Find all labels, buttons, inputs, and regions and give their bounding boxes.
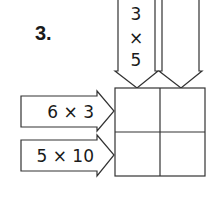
down-arrow-right xyxy=(159,0,202,88)
row-factor-top: 6 × 3 xyxy=(47,102,94,122)
arrow-factor-top: 3 xyxy=(131,4,142,24)
grid-cell-top-right[interactable] xyxy=(161,89,204,131)
grid-cell-top-left[interactable] xyxy=(116,89,159,131)
arrow-factor-bottom: 5 xyxy=(131,50,142,70)
down-arrow-left: 3 × 5 xyxy=(115,0,158,88)
row-factor-bottom: 5 × 10 xyxy=(37,146,95,166)
grid-cell-bottom-left[interactable] xyxy=(116,133,159,175)
grid-cell-bottom-right[interactable] xyxy=(161,133,204,175)
arrow-times-symbol: × xyxy=(129,28,143,48)
area-model-diagram: 3 × 5 6 × 3 5 × 10 xyxy=(0,0,216,200)
right-arrow-top: 6 × 3 xyxy=(21,91,114,131)
right-arrow-bottom: 5 × 10 xyxy=(21,135,114,176)
area-grid xyxy=(115,88,205,176)
